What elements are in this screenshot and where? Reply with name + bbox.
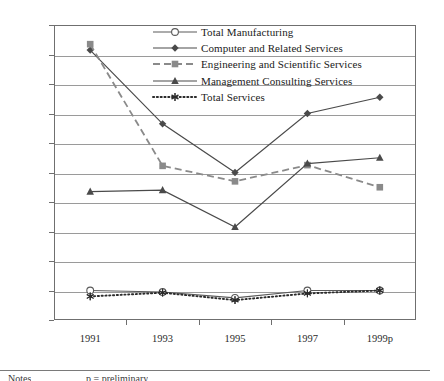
x-tick-label: 1999p xyxy=(367,333,393,344)
y-tick-mark xyxy=(49,320,54,321)
legend-key-filled-triangle-icon xyxy=(152,73,198,89)
legend-label: Engineering and Scientific Services xyxy=(198,58,362,70)
legend-item: Engineering and Scientific Services xyxy=(152,56,352,72)
legend-key-open-circle-icon xyxy=(152,24,198,40)
footer-divider xyxy=(0,370,430,371)
x-tick-mark xyxy=(344,320,345,325)
legend-key-filled-diamond-icon xyxy=(152,40,198,56)
x-tick-mark xyxy=(199,320,200,325)
x-tick-label: 1993 xyxy=(152,333,173,344)
legend-label: Total Manufacturing xyxy=(198,26,293,38)
legend-key-filled-square-icon xyxy=(152,56,198,72)
x-tick-label: 1995 xyxy=(225,333,246,344)
footer-preliminary-label: p = preliminary xyxy=(86,373,148,381)
footer-notes-label: Notes xyxy=(8,373,31,381)
x-tick-mark xyxy=(126,320,127,325)
line-chart: 0.002.004.006.008.0010.0012.0014.0016.00… xyxy=(0,0,444,381)
series-3 xyxy=(86,154,383,230)
x-tick-mark xyxy=(271,320,272,325)
legend-label: Computer and Related Services xyxy=(198,42,343,54)
legend-item: Management Consulting Services xyxy=(152,73,352,89)
legend-item: Total Services xyxy=(152,89,352,105)
legend-label: Total Services xyxy=(198,91,265,103)
legend-key-asterisk-icon xyxy=(152,89,198,105)
legend-item: Total Manufacturing xyxy=(152,24,352,40)
x-tick-label: 1991 xyxy=(80,333,101,344)
legend-label: Management Consulting Services xyxy=(198,75,352,87)
x-tick-label: 1997 xyxy=(297,333,318,344)
legend: Total ManufacturingComputer and Related … xyxy=(152,24,352,105)
legend-item: Computer and Related Services xyxy=(152,40,352,56)
